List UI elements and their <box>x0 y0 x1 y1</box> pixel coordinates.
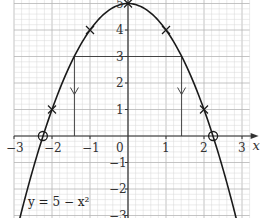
x-tick-label: 2 <box>200 141 208 155</box>
y-tick-label: 1 <box>116 103 124 117</box>
origin-label: 0 <box>116 141 124 155</box>
tick-labels: −3−2−11230−4−3−2−1123456xy <box>6 0 260 218</box>
x-tick-label: −3 <box>6 141 24 155</box>
x-tick-label: 3 <box>238 141 246 155</box>
equation-label: y = 5 − x² <box>27 195 90 209</box>
y-tick-label: −3 <box>109 209 127 219</box>
y-tick-label: 4 <box>116 23 124 37</box>
y-tick-label: −2 <box>109 182 127 196</box>
graph-y-equals-5-minus-x-squared: −3−2−11230−4−3−2−1123456xy y = 5 − x² <box>0 0 260 218</box>
grid <box>14 0 250 218</box>
x-tick-label: −2 <box>44 141 62 155</box>
y-tick-label: 3 <box>116 50 124 64</box>
x-axis-label: x <box>253 138 260 153</box>
x-tick-label: −1 <box>82 141 100 155</box>
y-tick-label: 2 <box>116 76 124 90</box>
y-tick-label: −1 <box>109 156 127 170</box>
y-tick-label: 5 <box>116 0 124 11</box>
x-tick-label: 1 <box>162 141 170 155</box>
